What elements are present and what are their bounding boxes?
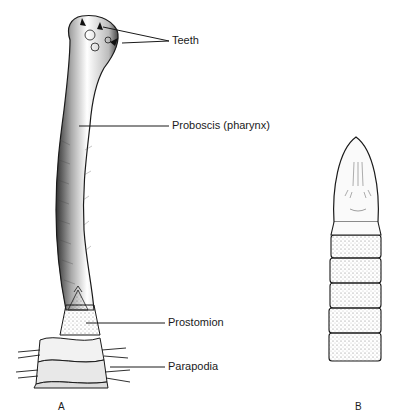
figure-letter-b: B [355, 401, 362, 412]
figure-letter-a: A [58, 401, 65, 412]
diagram-canvas [0, 0, 411, 416]
worm-anterior-drawing [329, 137, 381, 361]
proboscis-drawing [56, 16, 118, 310]
label-proboscis: Proboscis (pharynx) [172, 120, 270, 131]
label-teeth: Teeth [172, 35, 199, 46]
label-prostomion: Prostomion [168, 317, 224, 328]
label-parapodia: Parapodia [168, 361, 218, 372]
body-segments-a [16, 338, 130, 388]
